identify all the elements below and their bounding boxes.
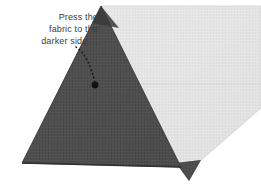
press-point-dot (92, 82, 99, 89)
dark-fabric-tab (176, 160, 201, 181)
figure-screenshot: Press the fabric to the darker side ... (0, 0, 261, 184)
instruction-caption: Press the fabric to the darker side ... (6, 11, 98, 48)
dark-tab-weave (176, 160, 201, 181)
